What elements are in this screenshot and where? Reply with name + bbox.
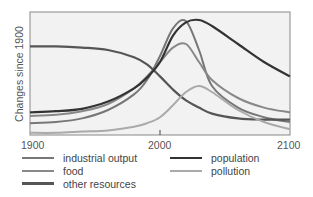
legend-label: other resources	[63, 178, 136, 190]
legend-label: pollution	[211, 165, 250, 177]
legend-swatch	[170, 170, 202, 172]
x-tick-label-1900: 1900	[21, 139, 44, 151]
x-tick-label-2100: 2100	[277, 139, 300, 151]
legend-item-pollution: pollution	[170, 164, 250, 177]
legend-label: population	[211, 152, 259, 164]
legend-swatch	[22, 157, 54, 159]
legend-swatch	[22, 182, 54, 185]
legend-item-other-resources: other resources	[22, 177, 136, 190]
legend-item-food: food	[22, 164, 83, 177]
y-axis-label: Changes since 1900	[13, 26, 25, 122]
legend-label: industrial output	[63, 152, 137, 164]
legend-swatch	[170, 157, 202, 159]
legend-item-population: population	[170, 151, 259, 164]
chart-plot	[0, 0, 313, 140]
legend-swatch	[22, 170, 54, 172]
legend-label: food	[63, 165, 83, 177]
x-tick-label-2000: 2000	[148, 139, 171, 151]
legend-item-industrial-output: industrial output	[22, 151, 137, 164]
